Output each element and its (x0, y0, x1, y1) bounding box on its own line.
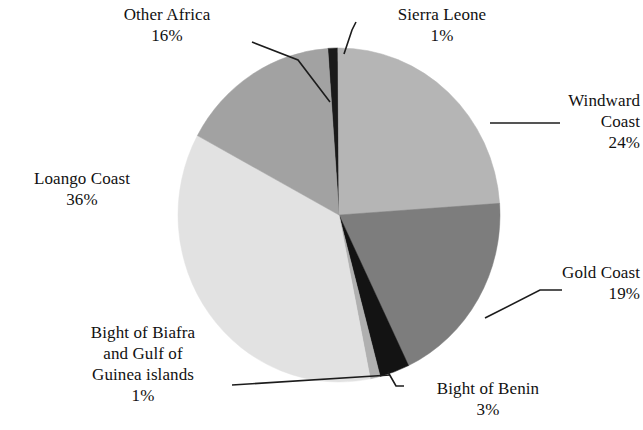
pie-label-bight-of-biafra-value: 1% (48, 385, 238, 406)
pie-label-bight-of-benin-value: 3% (398, 399, 578, 420)
pie-label-gold-coast: Gold Coast 19% (500, 262, 640, 304)
pie-slice-windward-coast (338, 48, 500, 215)
pie-label-other-africa: Other Africa 16% (72, 4, 262, 46)
pie-label-gold-coast-value: 19% (500, 283, 640, 304)
pie-label-sierra-leone: Sierra Leone 1% (352, 4, 532, 46)
pie-label-loango-coast: Loango Coast 36% (2, 168, 162, 210)
pie-label-bight-of-benin-name: Bight of Benin (437, 379, 539, 398)
pie-label-loango-coast-name: Loango Coast (34, 169, 130, 188)
pie-label-windward-coast-name-line2: Coast (500, 111, 640, 132)
pie-label-windward-coast-name-line1: Windward (568, 91, 640, 110)
pie-label-bight-of-benin: Bight of Benin 3% (398, 378, 578, 420)
pie-label-windward-coast: Windward Coast 24% (500, 90, 640, 153)
leader-line-sierra-leone (340, 16, 352, 30)
pie-label-bight-of-biafra-line3: Guinea islands (48, 364, 238, 385)
pie-label-bight-of-biafra-line1: Bight of Biafra (91, 323, 195, 342)
pie-label-other-africa-name: Other Africa (124, 5, 211, 24)
pie-label-other-africa-value: 16% (72, 25, 262, 46)
pie-label-sierra-leone-value: 1% (352, 25, 532, 46)
pie-label-bight-of-biafra-line2: and Gulf of (48, 343, 238, 364)
pie-chart: Other Africa 16% Sierra Leone 1% Windwar… (0, 0, 643, 430)
pie-label-loango-coast-value: 36% (2, 189, 162, 210)
pie-label-windward-coast-value: 24% (500, 132, 640, 153)
pie-label-bight-of-biafra: Bight of Biafra and Gulf of Guinea islan… (48, 322, 238, 406)
pie-label-sierra-leone-name: Sierra Leone (398, 5, 487, 24)
pie-label-gold-coast-name: Gold Coast (562, 263, 640, 282)
